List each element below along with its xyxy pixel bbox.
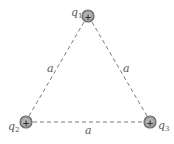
side-q1-q2	[29, 22, 84, 116]
plus-sign-icon: +	[22, 118, 30, 128]
charge-triangle-diagram: a a a + q1 + q2 + q3	[0, 0, 174, 144]
charge-q2: +	[20, 116, 32, 128]
charge-q3: +	[144, 116, 156, 128]
charge-label-q1: q1	[71, 6, 83, 20]
side-q1-q3	[92, 22, 147, 116]
charge-label-q3: q3	[158, 119, 170, 133]
charge-q1: +	[82, 10, 94, 22]
plus-sign-icon: +	[146, 118, 154, 128]
charge-label-q2: q2	[8, 120, 20, 134]
plus-sign-icon: +	[84, 12, 92, 22]
side-label-bottom: a	[85, 124, 92, 137]
side-label-left: a	[47, 62, 54, 75]
side-label-right: a	[123, 62, 130, 75]
